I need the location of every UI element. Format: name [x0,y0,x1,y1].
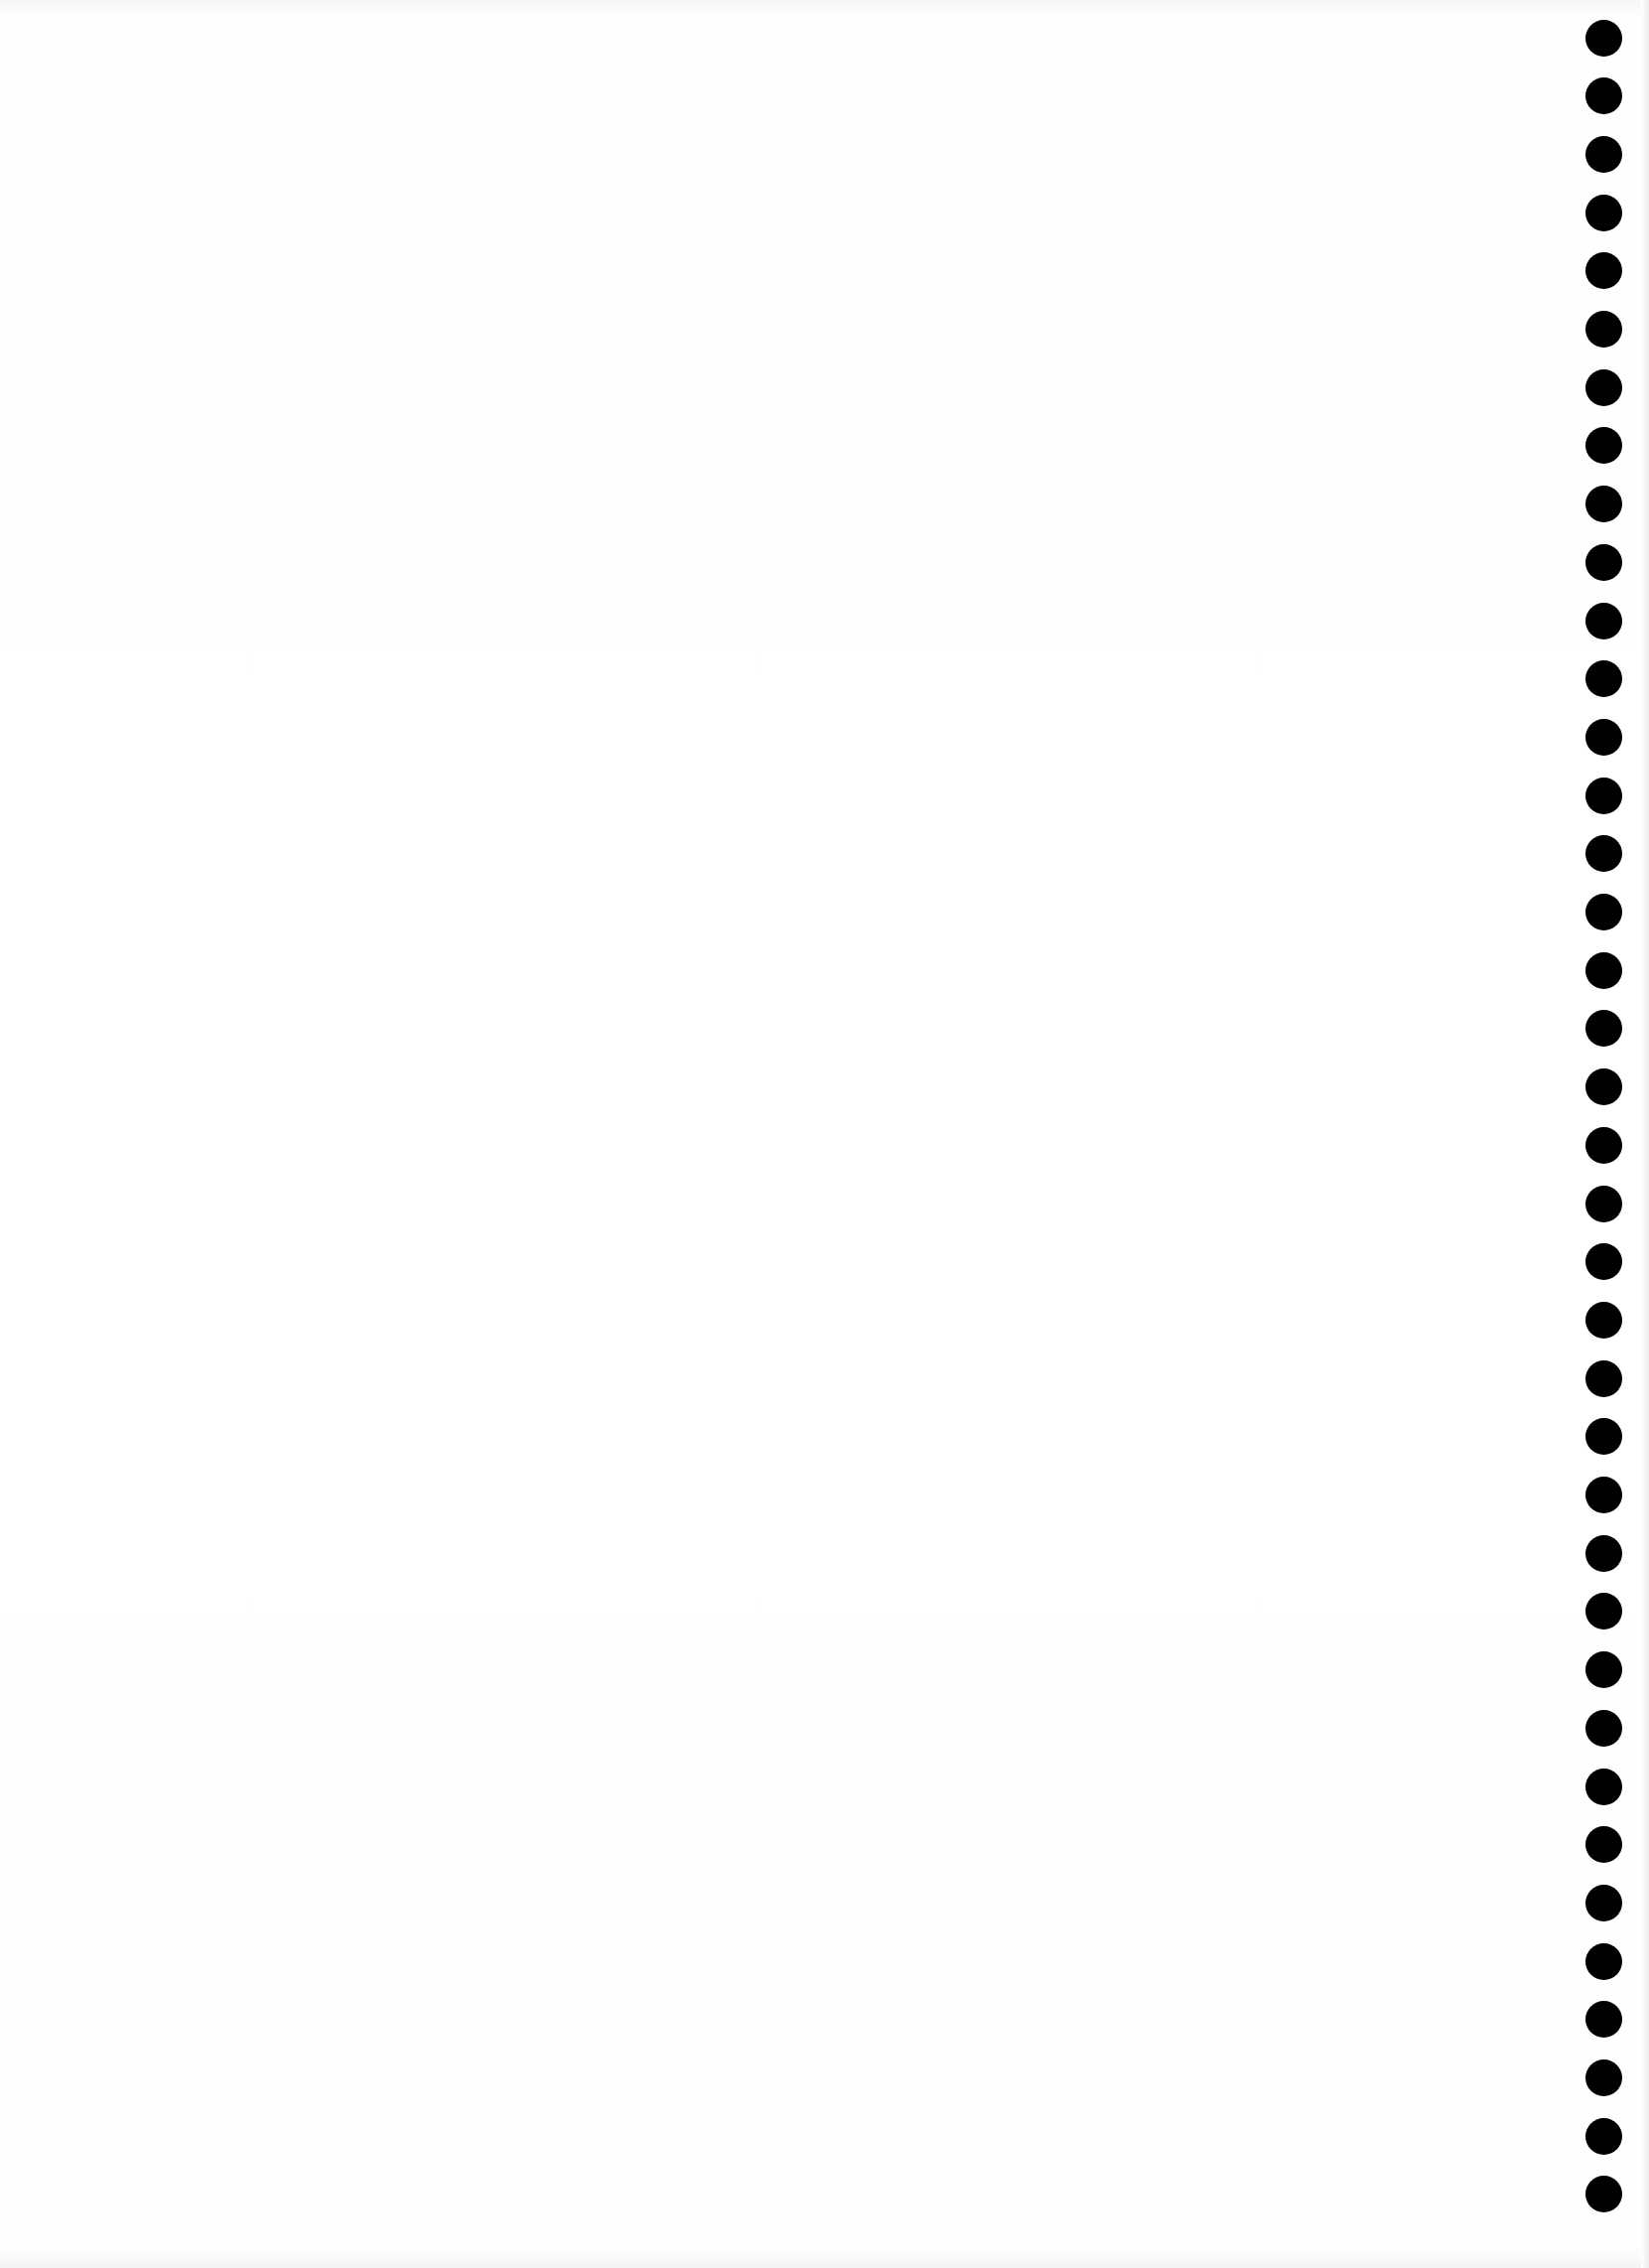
punch-hole [1585,486,1622,522]
punch-hole [1585,77,1622,114]
blank-paper-page [0,0,1649,2268]
punch-hole [1585,1068,1622,1105]
punch-hole [1585,2176,1622,2212]
punch-hole [1585,544,1622,581]
punch-hole [1585,894,1622,930]
punch-hole [1585,2001,1622,2038]
punch-hole [1585,1826,1622,1863]
punch-hole [1585,1360,1622,1397]
punch-hole [1585,20,1622,57]
punch-hole [1585,1302,1622,1339]
punch-hole [1585,719,1622,756]
punch-hole [1585,1127,1622,1164]
punch-hole [1585,1010,1622,1047]
punch-hole [1585,2059,1622,2096]
punch-hole [1585,2118,1622,2155]
punch-hole [1585,195,1622,231]
punch-hole [1585,603,1622,639]
punch-hole [1585,1477,1622,1513]
punch-hole [1585,1593,1622,1630]
punch-hole [1585,1535,1622,1572]
punch-hole [1585,952,1622,989]
punch-hole [1585,1243,1622,1280]
punch-hole [1585,252,1622,289]
punch-hole [1585,427,1622,464]
punch-hole [1585,1418,1622,1455]
punch-hole [1585,835,1622,872]
punch-hole [1585,1769,1622,1805]
punch-hole [1585,1186,1622,1222]
punch-hole [1585,1651,1622,1688]
punch-hole-column [0,0,1649,2268]
punch-hole [1585,311,1622,348]
punch-hole [1585,660,1622,697]
punch-hole [1585,1885,1622,1921]
punch-hole [1585,778,1622,814]
punch-hole [1585,136,1622,173]
punch-hole [1585,1943,1622,1980]
punch-hole [1585,1710,1622,1747]
punch-hole [1585,369,1622,406]
